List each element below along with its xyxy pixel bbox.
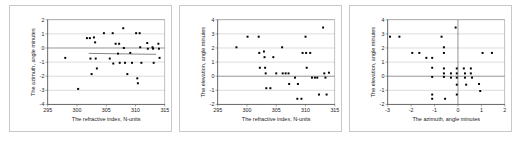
- x-axis-tick-label: 1: [480, 107, 483, 113]
- data-point: [153, 62, 155, 64]
- data-point: [269, 87, 271, 89]
- y-axis-tick-label: 3: [381, 31, 384, 37]
- y-axis-tick-label: 3: [211, 31, 214, 37]
- y-axis-tick-label: 1: [211, 59, 214, 65]
- y-axis-tick-label: 4: [381, 17, 384, 23]
- y-axis-tick-label: 0: [381, 73, 384, 79]
- data-point: [441, 36, 443, 38]
- data-point: [288, 72, 290, 74]
- chart-panel-elevation-vs-azimuth: 43210-1-2-3-2-1012The azimuth, angle min…: [349, 5, 512, 132]
- data-point: [418, 52, 420, 54]
- data-point: [147, 48, 149, 50]
- data-point: [471, 77, 473, 79]
- y-axis-tick-label: -4: [40, 101, 45, 107]
- x-axis-title: The refractive index, N-units: [242, 116, 311, 122]
- chart-panel-azimuth-vs-refractive-index: 210-1-2-3-4295300305310315The refractive…: [9, 5, 172, 132]
- data-point: [93, 36, 95, 38]
- data-point: [431, 57, 433, 59]
- data-point: [456, 72, 458, 74]
- x-axis-tick-label: 315: [160, 107, 169, 113]
- data-point: [263, 51, 265, 53]
- data-point: [302, 52, 304, 54]
- data-point: [131, 62, 133, 64]
- data-point: [235, 46, 237, 48]
- chart-panel-elevation-vs-refractive-index: 43210-1-2295300305310315The refractive i…: [179, 5, 342, 132]
- y-axis-tick-label: -2: [210, 101, 215, 107]
- data-point: [146, 42, 148, 44]
- data-point: [464, 72, 466, 74]
- data-point: [275, 72, 277, 74]
- x-axis-tick-label: 310: [301, 107, 310, 113]
- y-axis-tick-label: 2: [41, 17, 44, 23]
- x-axis-tick-label: 300: [243, 107, 252, 113]
- data-point: [450, 77, 452, 79]
- y-axis-tick-label: -3: [40, 87, 45, 93]
- data-point: [272, 56, 274, 58]
- y-axis-tick-label: 1: [41, 31, 44, 37]
- data-point: [470, 67, 472, 69]
- data-point: [103, 32, 105, 34]
- x-axis-tick-label: 310: [131, 107, 140, 113]
- data-point: [479, 90, 481, 92]
- data-point: [456, 67, 458, 69]
- x-axis-tick-label: 0: [456, 107, 459, 113]
- data-point: [443, 67, 445, 69]
- data-point: [482, 52, 484, 54]
- data-point: [89, 58, 91, 60]
- y-axis-tick-label: -1: [380, 87, 385, 93]
- data-point: [431, 94, 433, 96]
- data-point: [265, 87, 267, 89]
- data-point: [309, 52, 311, 54]
- data-point: [94, 41, 96, 43]
- data-point: [64, 57, 66, 59]
- data-point: [285, 72, 287, 74]
- data-point: [297, 83, 299, 85]
- data-point: [152, 48, 154, 50]
- data-point: [89, 37, 91, 39]
- data-point: [326, 94, 328, 96]
- x-axis-tick-label: 295: [213, 107, 222, 113]
- y-axis-tick-label: -1: [210, 87, 215, 93]
- data-point: [258, 36, 260, 38]
- data-point: [139, 32, 141, 34]
- data-point: [491, 52, 493, 54]
- data-point: [300, 98, 302, 100]
- x-axis-tick-label: 305: [272, 107, 281, 113]
- data-point: [115, 43, 117, 45]
- y-axis-tick-label: -2: [380, 101, 385, 107]
- data-point: [324, 77, 326, 79]
- data-point: [398, 36, 400, 38]
- data-point: [411, 52, 413, 54]
- data-point: [443, 52, 445, 54]
- data-point: [259, 67, 261, 69]
- data-point: [311, 77, 313, 79]
- data-point: [119, 62, 121, 64]
- data-point: [124, 62, 126, 64]
- data-point: [323, 72, 325, 74]
- data-point: [112, 32, 114, 34]
- y-axis-title: The azimuth, angle minutes: [30, 28, 36, 96]
- chart-svg-1: 210-1-2-3-4295300305310315The refractive…: [10, 6, 171, 131]
- data-point: [129, 52, 131, 54]
- x-axis-tick-label: 315: [330, 107, 339, 113]
- data-point: [126, 73, 128, 75]
- y-axis-tick-label: 1: [381, 59, 384, 65]
- data-point: [140, 62, 142, 64]
- data-point: [456, 77, 458, 79]
- y-axis-tick-label: -2: [40, 73, 45, 79]
- data-point: [117, 53, 119, 55]
- data-point: [318, 94, 320, 96]
- data-point: [135, 32, 137, 34]
- data-point: [389, 36, 391, 38]
- x-axis-tick-label: 305: [102, 107, 111, 113]
- scatter-plot-figure: 210-1-2-3-4295300305310315The refractive…: [0, 0, 530, 143]
- data-point: [123, 47, 125, 49]
- chart-svg-2: 43210-1-2295300305310315The refractive i…: [180, 6, 341, 131]
- data-point: [159, 57, 161, 59]
- data-point: [322, 27, 324, 29]
- data-point: [443, 46, 445, 48]
- data-point: [282, 72, 284, 74]
- data-point: [281, 46, 283, 48]
- data-point: [139, 46, 141, 48]
- data-point: [112, 63, 114, 65]
